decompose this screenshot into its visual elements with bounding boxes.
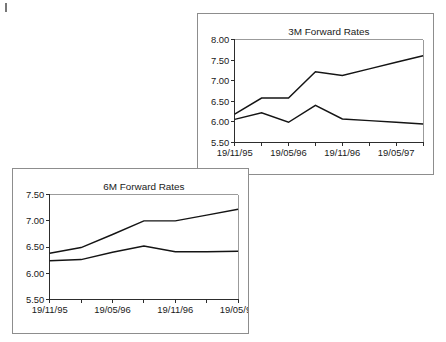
scan-artifact-speck [5, 3, 7, 12]
y-tick-label: 7.50 [26, 189, 44, 200]
plot-frame [50, 195, 238, 300]
y-tick-label: 7.50 [211, 55, 229, 66]
chart-panel-3m-forward-rates: 5.506.006.507.007.508.0019/11/9519/05/96… [197, 13, 434, 175]
x-tick-label: 19/11/96 [324, 147, 360, 158]
chart-panel-6m-forward-rates: 5.506.006.507.007.5019/11/9519/05/9619/1… [12, 168, 249, 334]
x-tick-label: 19/05/96 [270, 147, 307, 158]
y-tick-label: 7.00 [211, 75, 229, 86]
plot-frame [235, 40, 423, 143]
chart-title: 3M Forward Rates [288, 26, 369, 37]
x-tick-label: 19/05/97 [378, 147, 415, 158]
x-tick-label: 19/11/95 [217, 147, 253, 158]
y-tick-label: 6.50 [211, 96, 229, 107]
chart-3m-forward-rates: 5.506.006.507.007.508.0019/11/9519/05/96… [198, 14, 433, 174]
y-tick-label: 5.50 [26, 294, 44, 305]
y-tick-label: 7.00 [26, 215, 44, 226]
series-line-lower [235, 105, 423, 123]
page-root: 5.506.006.507.007.508.0019/11/9519/05/96… [0, 0, 446, 342]
chart-title: 6M Forward Rates [103, 181, 184, 192]
y-tick-label: 8.00 [211, 34, 229, 45]
x-tick-label: 19/11/96 [157, 304, 193, 315]
y-tick-label: 6.00 [211, 116, 229, 127]
x-tick-label: 19/05/97 [220, 304, 248, 315]
x-tick-label: 19/11/95 [32, 304, 68, 315]
y-tick-label: 6.00 [26, 268, 44, 279]
series-line-upper [235, 56, 423, 114]
x-tick-label: 19/05/96 [94, 304, 131, 315]
y-tick-label: 5.50 [211, 137, 229, 148]
y-tick-label: 6.50 [26, 241, 44, 252]
chart-6m-forward-rates: 5.506.006.507.007.5019/11/9519/05/9619/1… [13, 169, 248, 333]
